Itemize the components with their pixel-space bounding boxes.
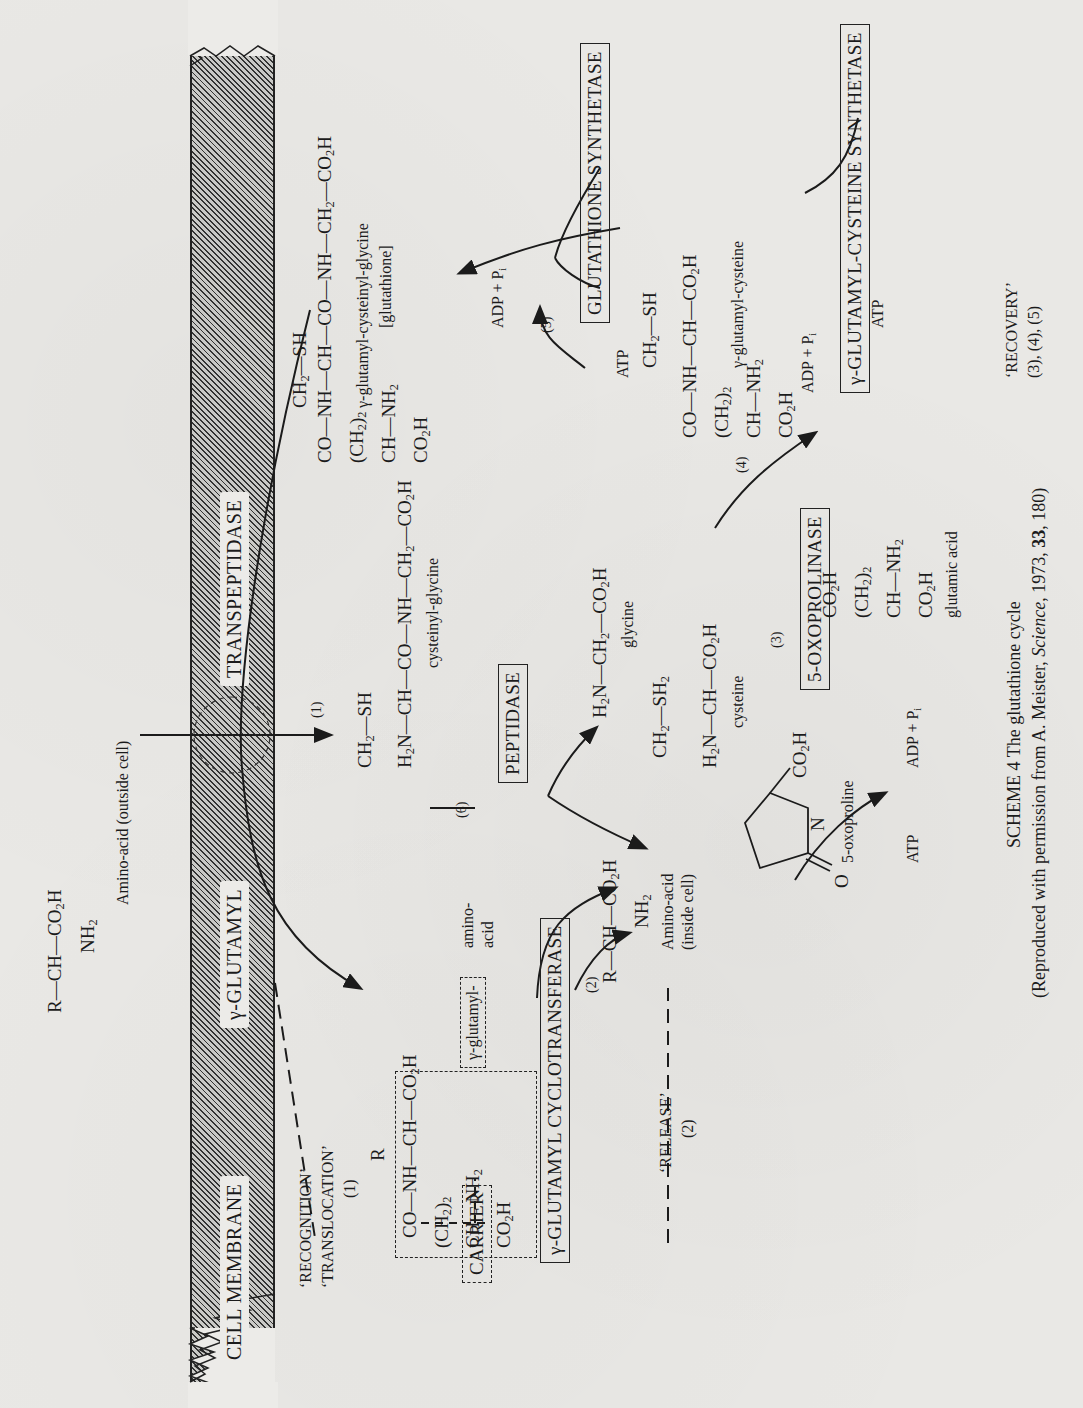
gcsynth-adp-text: ADP + P [799, 336, 816, 393]
scheme-caption-source: (Reproduced with permission from A. Meis… [1030, 488, 1048, 998]
gsh-name: γ-glutamyl-cysteinyl-glycine [355, 223, 371, 408]
caption-source-pages: , 180) [1029, 488, 1049, 530]
cysglycine-backbone: H2N—CH—CO—NH—CH2—CO2H [395, 480, 414, 768]
scheme-caption-title: SCHEME 4 The glutathione cycle [1005, 601, 1023, 848]
step-6: (6) [455, 802, 469, 818]
caption-source-volume: 33 [1029, 530, 1049, 548]
gglucys-ch2: (CH2)2 [712, 387, 731, 438]
caption-source-prefix: (Reproduced with permission from A. Meis… [1029, 657, 1049, 998]
glycine-formula: H2N—CH2—CO2H [590, 567, 609, 718]
glycine-label: glycine [620, 601, 636, 648]
oxoprolinase-adp-text: ADP + P [904, 711, 921, 768]
gcsynth-adp: ADP + Pi [800, 333, 816, 393]
glutathione-cycle-diagram: CELL MEMBRANE γ-GLUTAMYL TRANSPEPTIDASE [0, 0, 1083, 1408]
oxoproline-label: 5-oxoproline [840, 780, 856, 863]
gsh-alias: [glutathione] [378, 245, 394, 328]
gshsynth-atp: ATP [615, 350, 631, 378]
glutamic-co2h-top: CO2H [820, 572, 839, 618]
oxoprolinase-atp: ATP [905, 835, 921, 863]
gsh-backbone: CO—NH—CH—CO—NH—CH2—CO2H [315, 136, 334, 463]
gglucys-ch2sh: CH2—SH [640, 292, 659, 368]
oxoproline-ring [0, 0, 1083, 1408]
step-5: (5) [540, 317, 554, 333]
gglucys-label: γ-glutamyl-cysteine [730, 241, 746, 368]
cysglycine-label: cysteinyl-glycine [425, 558, 441, 668]
oxoproline-o: O [832, 874, 851, 888]
enzyme-gsh-synthetase: GLUTATHIONE SYNTHETASE [580, 43, 610, 323]
gshsynth-adp: ADP + Pi [490, 268, 506, 328]
cysteine-ch2sh: CH2—SH2 [650, 676, 669, 758]
cysteine-label: cysteine [730, 676, 746, 728]
glutamic-co2h-bottom: CO2H [916, 572, 935, 618]
enzyme-peptidase: PEPTIDASE [498, 664, 528, 783]
step-4: (4) [735, 457, 749, 473]
glutamic-chnh2: CH—NH2 [884, 539, 903, 618]
oxoproline-co2h: CO2H [790, 732, 809, 778]
caption-source-journal: Science [1029, 602, 1049, 657]
gcsynth-atp: ATP [870, 300, 886, 328]
enzyme-gc-synthetase: γ-GLUTAMYL-CYSTEINE SYNTHETASE [840, 24, 870, 393]
cysglycine-ch2sh: CH2—SH [355, 692, 374, 768]
gsh-co2h: CO2H [411, 417, 430, 463]
gshsynth-adp-text: ADP + P [489, 271, 506, 328]
gsh-ch2: (CH2)2 [347, 412, 366, 463]
glutamic-ch2: (CH2)2 [852, 567, 871, 618]
gsh-chnh2: CH—NH2 [379, 384, 398, 463]
step-1: (1) [310, 702, 324, 718]
gglucys-backbone: CO—NH—CH—CO2H [680, 254, 699, 438]
caption-source-year: , 1973, [1029, 548, 1049, 602]
cysteine-backbone: H2N—CH—CO2H [700, 624, 719, 768]
oxoproline-n: N [808, 817, 827, 831]
gglucys-chnh2: CH—NH2 [744, 359, 763, 438]
gglucys-co2h: CO2H [776, 392, 795, 438]
oxoprolinase-adp: ADP + Pi [905, 708, 921, 768]
gsh-ch2sh: CH2—SH [290, 332, 309, 408]
step-3: (3) [770, 632, 784, 648]
glutamic-label: glutamic acid [944, 531, 960, 618]
